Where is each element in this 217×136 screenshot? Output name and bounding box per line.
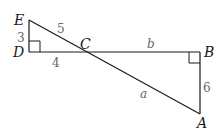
vertex-label-A: A [195,115,207,131]
vertex-label-C: C [80,36,91,52]
side-label-DC: 4 [52,56,60,70]
side-label-CB: b [147,37,155,51]
right-angle-marker-B [189,52,200,63]
similar-triangles-diagram: E D C B A 3 5 4 b 6 a [0,0,217,136]
vertex-label-B: B [203,44,214,60]
side-label-EC: 5 [57,22,65,36]
side-label-BA: 6 [203,81,211,95]
vertex-label-E: E [13,12,24,28]
vertex-label-D: D [12,44,24,60]
side-label-CA: a [140,87,147,101]
side-label-ED: 3 [17,31,25,45]
right-angle-marker-D [29,41,40,52]
